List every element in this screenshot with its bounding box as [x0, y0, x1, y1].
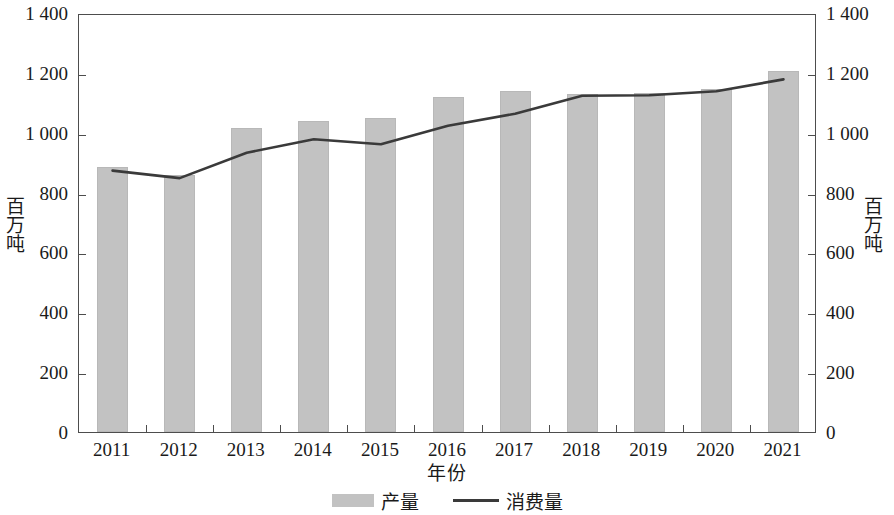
- x-tick-mark: [482, 425, 483, 432]
- y-tick-mark-left: [79, 135, 86, 136]
- x-tick-mark: [347, 425, 348, 432]
- y-tick-mark-left: [79, 75, 86, 76]
- y-tick-label-left: 600: [0, 243, 68, 262]
- x-tick-mark: [683, 425, 684, 432]
- y-tick-mark-right: [808, 314, 815, 315]
- y-tick-label-left: 200: [0, 363, 68, 382]
- y-tick-label-left: 400: [0, 303, 68, 322]
- y-tick-mark-left: [79, 254, 86, 255]
- line-series-consumption: [79, 15, 817, 434]
- x-tick-mark: [213, 425, 214, 432]
- y-tick-label-left: 800: [0, 184, 68, 203]
- y-tick-mark-left: [79, 374, 86, 375]
- y-tick-label-right: 1 200: [826, 64, 869, 83]
- x-tick-mark: [146, 425, 147, 432]
- y-tick-label-left: 0: [0, 423, 68, 442]
- bar-swatch-icon: [332, 494, 374, 507]
- y-tick-label-right: 400: [826, 303, 855, 322]
- legend-label-consumption: 消费量: [506, 487, 563, 514]
- y-tick-mark-right: [808, 195, 815, 196]
- x-axis-title: 年份: [0, 458, 894, 485]
- y-tick-label-right: 200: [826, 363, 855, 382]
- y-tick-mark-left: [79, 195, 86, 196]
- y-tick-label-right: 1 400: [826, 4, 869, 23]
- y-tick-mark-right: [808, 374, 815, 375]
- y-axis-title-right: 百万吨: [862, 196, 881, 253]
- consumption-polyline: [113, 79, 784, 178]
- y-tick-label-left: 1 200: [0, 64, 68, 83]
- y-tick-label-left: 1 400: [0, 4, 68, 23]
- y-tick-label-right: 1 000: [826, 124, 869, 143]
- line-swatch-icon: [453, 499, 499, 502]
- chart-legend: 产量 消费量: [0, 487, 894, 514]
- x-tick-mark: [616, 425, 617, 432]
- x-tick-mark: [280, 425, 281, 432]
- y-tick-label-right: 0: [826, 423, 836, 442]
- chart-figure: 百万吨 百万吨 年份 02004006008001 0001 2001 400 …: [0, 0, 894, 515]
- y-tick-label-right: 600: [826, 243, 855, 262]
- y-tick-mark-right: [808, 75, 815, 76]
- x-tick-mark: [549, 425, 550, 432]
- y-tick-label-right: 800: [826, 184, 855, 203]
- legend-label-production: 产量: [381, 487, 419, 514]
- x-tick-mark: [750, 425, 751, 432]
- legend-item-consumption: 消费量: [453, 487, 563, 514]
- x-tick-mark: [414, 425, 415, 432]
- y-tick-mark-right: [808, 135, 815, 136]
- legend-item-production: 产量: [332, 487, 419, 514]
- plot-area: [78, 14, 816, 433]
- x-tick-label: 2021: [742, 440, 822, 459]
- y-tick-mark-left: [79, 314, 86, 315]
- y-tick-mark-right: [808, 254, 815, 255]
- y-tick-label-left: 1 000: [0, 124, 68, 143]
